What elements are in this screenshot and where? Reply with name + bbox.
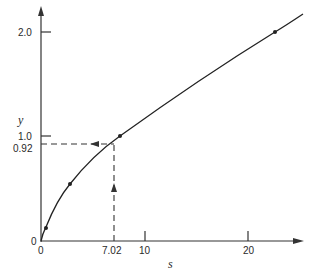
data-point xyxy=(68,182,72,186)
arrow-up-icon xyxy=(111,183,117,192)
y-tick-label-1: 1.0 xyxy=(18,131,32,142)
x-tick-label-0: 0 xyxy=(38,245,44,256)
y-axis-label: y xyxy=(17,113,24,127)
annotation-horizontal-dashed-arrow xyxy=(41,141,114,147)
y-axis xyxy=(38,6,51,242)
y-tick-label-2: 2.0 xyxy=(18,27,32,38)
data-curve xyxy=(41,14,303,241)
annotation-vertical-dashed-arrow xyxy=(111,144,117,241)
x-tick-label-20: 20 xyxy=(243,245,255,256)
data-point xyxy=(118,134,122,138)
y-marker-label: 0.92 xyxy=(13,143,33,154)
x-axis xyxy=(41,231,304,244)
x-axis-label: s xyxy=(168,257,173,271)
data-point xyxy=(273,30,277,34)
chart-canvas: 2.0 1.0 0.92 0 0 7.02 10 20 y s xyxy=(0,0,318,277)
x-marker-label: 7.02 xyxy=(102,245,122,256)
arrow-left-icon xyxy=(90,141,99,147)
x-tick-label-10: 10 xyxy=(139,245,151,256)
data-point xyxy=(44,226,48,230)
y-tick-label-0: 0 xyxy=(31,236,37,247)
